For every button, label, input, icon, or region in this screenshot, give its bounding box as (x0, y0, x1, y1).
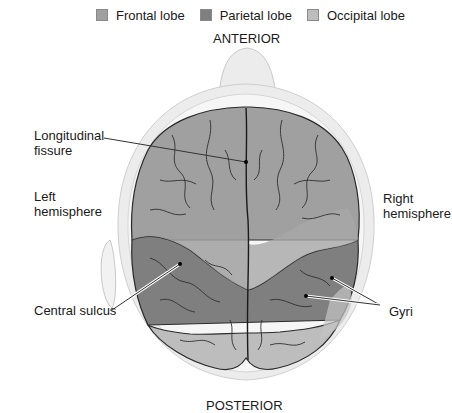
left-hemisphere-label-line2: hemisphere (34, 204, 102, 219)
longitudinal-fissure-label-line1: Longitudinal (34, 128, 104, 143)
gyri-label: Gyri (389, 304, 413, 319)
left-hemisphere-label-line1: Left (34, 189, 56, 204)
central-sulcus-label: Central sulcus (34, 303, 116, 318)
anterior-label: ANTERIOR (213, 31, 280, 46)
right-hemisphere-label-line2: hemisphere (383, 206, 451, 221)
longitudinal-fissure-label-line2: fissure (34, 143, 72, 158)
posterior-label: POSTERIOR (206, 398, 283, 413)
right-hemisphere-label-line1: Right (383, 191, 413, 206)
